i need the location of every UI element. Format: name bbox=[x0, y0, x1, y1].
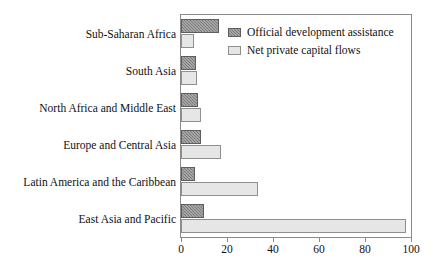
y-axis-label: Latin America and the Caribbean bbox=[0, 176, 176, 188]
x-axis-tick-label: 40 bbox=[267, 242, 279, 256]
y-axis-label: East Asia and Pacific bbox=[0, 213, 176, 225]
bar-oda bbox=[181, 204, 204, 218]
bar-oda bbox=[181, 56, 196, 70]
x-axis-tick-label: 0 bbox=[178, 242, 184, 256]
legend-swatch-net-private-capital-flows bbox=[228, 46, 241, 55]
legend-item: Official development assistance bbox=[228, 24, 410, 40]
legend-item: Net private capital flows bbox=[228, 42, 410, 58]
chart-legend: Official development assistance Net priv… bbox=[228, 24, 410, 60]
bar-npcf bbox=[181, 219, 406, 233]
y-axis-label: South Asia bbox=[0, 65, 176, 77]
x-axis-tick-label: 100 bbox=[402, 242, 419, 256]
chart-page: Sub-Saharan AfricaSouth AsiaNorth Africa… bbox=[0, 0, 434, 274]
bar-oda bbox=[181, 19, 219, 33]
y-axis-label: Europe and Central Asia bbox=[0, 139, 176, 151]
bar-npcf bbox=[181, 145, 221, 159]
bar-oda bbox=[181, 93, 198, 107]
legend-label: Official development assistance bbox=[247, 26, 394, 38]
x-axis-tick-label: 60 bbox=[313, 242, 325, 256]
x-axis-tick-labels: 020406080100 bbox=[181, 242, 411, 258]
bar-oda bbox=[181, 167, 195, 181]
bar-oda bbox=[181, 130, 201, 144]
bar-npcf bbox=[181, 34, 194, 48]
legend-swatch-official-development-assistance bbox=[228, 28, 241, 37]
bar-npcf bbox=[181, 71, 197, 85]
x-axis-tick-label: 20 bbox=[221, 242, 233, 256]
y-axis-labels: Sub-Saharan AfricaSouth AsiaNorth Africa… bbox=[0, 15, 176, 237]
bar-npcf bbox=[181, 182, 258, 196]
y-axis-label: Sub-Saharan Africa bbox=[0, 28, 176, 40]
y-axis-label: North Africa and Middle East bbox=[0, 102, 176, 114]
bar-npcf bbox=[181, 108, 201, 122]
legend-label: Net private capital flows bbox=[247, 44, 360, 56]
x-axis-tick-label: 80 bbox=[359, 242, 371, 256]
